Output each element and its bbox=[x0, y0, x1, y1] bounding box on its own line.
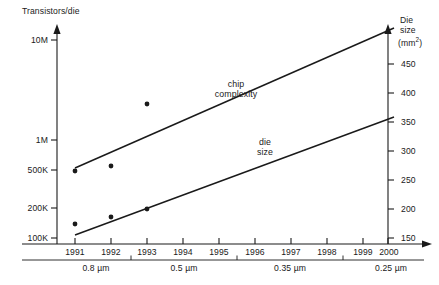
process-band-label-0-5um: 0.5 µm bbox=[148, 263, 220, 274]
right-axis-title-line1: Die bbox=[400, 15, 413, 25]
datapoint bbox=[109, 164, 114, 169]
x-tick-label-1992: 1992 bbox=[93, 247, 129, 258]
right-axis-ticks bbox=[388, 64, 394, 238]
annotation-die-size-line2: size bbox=[240, 147, 290, 158]
y2-tick-label-450: 450 bbox=[401, 59, 416, 70]
y-tick-label-100k: 100K bbox=[4, 233, 48, 244]
y2-tick-label-400: 400 bbox=[401, 88, 416, 99]
process-band-label-0-35um: 0.35 µm bbox=[254, 263, 326, 274]
x-axis-arrowhead bbox=[422, 240, 432, 247]
annotation-die-size-line1: die bbox=[240, 137, 290, 148]
y-tick-label-1m: 1M bbox=[4, 135, 48, 146]
y-tick-label-200k: 200K bbox=[4, 203, 48, 214]
x-tick-label-1993: 1993 bbox=[129, 247, 165, 258]
right-axis-title-line2: size bbox=[400, 25, 416, 35]
trendline-die-size bbox=[75, 117, 394, 235]
chart-figure: Transistors/die Die size (mm2) 10M 1M 50… bbox=[0, 0, 439, 285]
y2-tick-label-350: 350 bbox=[401, 117, 416, 128]
datapoint bbox=[73, 169, 78, 174]
x-tick-label-1996: 1996 bbox=[237, 247, 273, 258]
right-axis-title-line3: (mm2) bbox=[398, 35, 422, 48]
datapoint bbox=[109, 215, 114, 220]
x-axis-ticks bbox=[75, 238, 388, 244]
datapoint bbox=[145, 207, 150, 212]
right-axis-unit-open: (mm bbox=[398, 38, 415, 48]
right-axis-unit-close: ) bbox=[419, 38, 422, 48]
x-tick-label-2000: 2000 bbox=[371, 247, 407, 258]
left-axis-group bbox=[51, 24, 61, 244]
y-tick-label-500k: 500K bbox=[4, 165, 48, 176]
left-axis-ticks bbox=[51, 40, 57, 238]
datapoints-chip-complexity bbox=[73, 102, 150, 174]
x-tick-label-1994: 1994 bbox=[165, 247, 201, 258]
y2-tick-label-300: 300 bbox=[401, 146, 416, 157]
y-tick-label-10m: 10M bbox=[4, 35, 48, 46]
datapoint bbox=[145, 102, 150, 107]
annotation-chip-complexity-line1: chip bbox=[196, 79, 276, 90]
right-axis-group bbox=[384, 24, 394, 244]
y2-tick-label-200: 200 bbox=[401, 204, 416, 215]
left-axis-arrowhead bbox=[53, 24, 60, 34]
y2-tick-label-250: 250 bbox=[401, 175, 416, 186]
process-band-label-0-25um: 0.25 µm bbox=[355, 263, 427, 274]
datapoint bbox=[73, 222, 78, 227]
y2-tick-label-150: 150 bbox=[401, 233, 416, 244]
x-tick-label-1998: 1998 bbox=[309, 247, 345, 258]
datapoints-die-size bbox=[73, 207, 150, 227]
x-tick-label-1995: 1995 bbox=[201, 247, 237, 258]
x-tick-label-1997: 1997 bbox=[273, 247, 309, 258]
annotation-chip-complexity-line2: complexity bbox=[196, 89, 276, 100]
x-tick-label-1991: 1991 bbox=[57, 247, 93, 258]
left-axis-title: Transistors/die bbox=[22, 6, 80, 16]
process-band-label-0-8um: 0.8 µm bbox=[60, 263, 132, 274]
chart-plot-area bbox=[0, 0, 439, 285]
